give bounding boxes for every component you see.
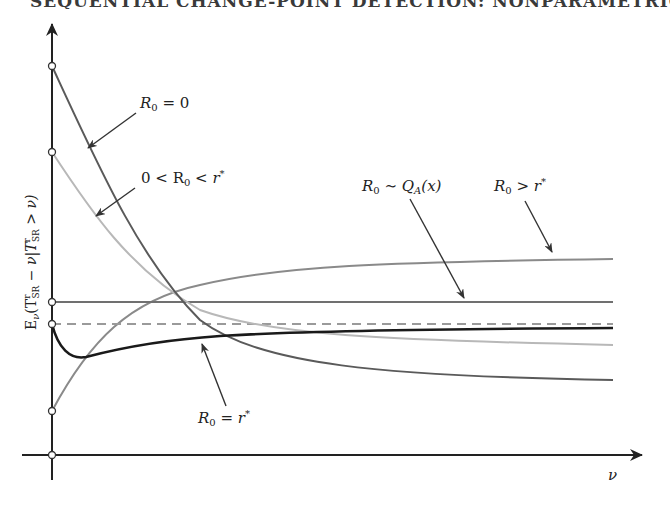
label-r0-eq-rstar: R0 = r* [197, 408, 250, 428]
curve-r0-eq-rstar [52, 324, 613, 357]
label-r0-gt-rstar: R0 > r* [493, 176, 546, 196]
arrow-r0-zero [88, 113, 136, 148]
x-axis-label: ν [608, 466, 617, 484]
arrow-r0-qa [410, 199, 464, 298]
arrow-r0-gt [525, 201, 552, 252]
label-r0-between: 0 < R0 < r* [141, 168, 225, 188]
y-axis-label: Eν(TrSR − ν|TrSR > ν) [22, 195, 41, 330]
label-r0-zero: R0 = 0 [139, 94, 189, 113]
label-r0-qa: R0 ∼ QA(x) [361, 177, 442, 196]
arrow-r0-eq [202, 344, 226, 406]
curve-r0-gt-rstar [52, 259, 613, 411]
arrow-r0-between [96, 188, 135, 216]
